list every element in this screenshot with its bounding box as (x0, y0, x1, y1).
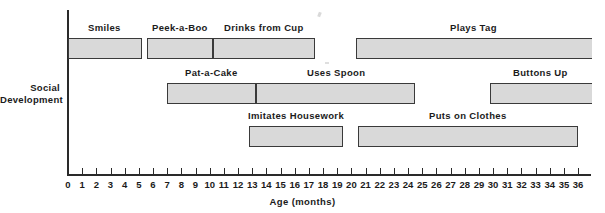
milestone-bar-label: Plays Tag (450, 22, 497, 34)
milestone-bar-label: Peek-a-Boo (152, 22, 208, 34)
milestone-bar-label: Imitates Housework (248, 110, 344, 122)
scan-speck-1 (317, 12, 322, 18)
x-axis-tick (224, 168, 225, 175)
x-axis-tick (266, 168, 267, 175)
x-axis-tick (337, 168, 338, 175)
x-axis-tick (578, 168, 579, 175)
x-axis-tick (139, 168, 140, 175)
x-axis-tick (493, 168, 494, 175)
y-axis-title-line-1: Social (0, 82, 60, 94)
milestone-bar[interactable] (147, 38, 212, 59)
x-axis-tick (394, 168, 395, 175)
x-axis-tick (111, 168, 112, 175)
x-axis-tick (181, 168, 182, 175)
x-axis-tick-label: 36 (568, 179, 588, 190)
y-axis-line (67, 10, 69, 176)
x-axis-tick (451, 168, 452, 175)
milestone-bar[interactable] (358, 126, 578, 147)
x-axis-tick (82, 168, 83, 175)
milestone-bar[interactable] (68, 38, 142, 59)
x-axis-tick (422, 168, 423, 175)
milestone-bar[interactable] (249, 126, 343, 147)
x-axis-title: Age (months) (0, 196, 605, 207)
x-axis-tick (295, 168, 296, 175)
x-axis-tick (521, 168, 522, 175)
x-axis-tick (366, 168, 367, 175)
x-axis-tick (436, 168, 437, 175)
milestone-bar-label: Buttons Up (513, 67, 568, 79)
milestone-bar-label: Uses Spoon (307, 67, 365, 79)
x-axis-tick (465, 168, 466, 175)
x-axis-tick (408, 168, 409, 175)
x-axis-tick (238, 168, 239, 175)
y-axis-title-line-2: Development (0, 94, 60, 106)
y-axis-title: Social Development (0, 82, 60, 106)
milestone-bar-label: Drinks from Cup (224, 22, 304, 34)
x-axis-tick (196, 168, 197, 175)
x-axis-tick (153, 168, 154, 175)
milestone-bar-label: Puts on Clothes (429, 110, 507, 122)
x-axis-tick (479, 168, 480, 175)
milestone-bar[interactable] (213, 38, 315, 59)
x-axis-tick (507, 168, 508, 175)
x-axis-tick (281, 168, 282, 175)
x-axis-tick (210, 168, 211, 175)
social-development-timeline-chart: Social Development 012345678910111213141… (0, 0, 605, 213)
x-axis-tick (380, 168, 381, 175)
milestone-bar[interactable] (256, 83, 415, 104)
milestone-bar[interactable] (167, 83, 256, 104)
x-axis-tick (351, 168, 352, 175)
x-axis-tick (252, 168, 253, 175)
x-axis-tick (536, 168, 537, 175)
x-axis-tick (323, 168, 324, 175)
milestone-bar-label: Smiles (88, 22, 121, 34)
x-axis-tick (125, 168, 126, 175)
milestone-bar-label: Pat-a-Cake (185, 67, 238, 79)
milestone-bar[interactable] (356, 38, 593, 59)
x-axis-tick (96, 168, 97, 175)
x-axis-tick (564, 168, 565, 175)
milestone-bar[interactable] (490, 83, 592, 104)
scan-speck-2 (325, 62, 329, 64)
x-axis-tick (167, 168, 168, 175)
x-axis-tick (550, 168, 551, 175)
x-axis-line (67, 174, 591, 176)
x-axis-tick (309, 168, 310, 175)
